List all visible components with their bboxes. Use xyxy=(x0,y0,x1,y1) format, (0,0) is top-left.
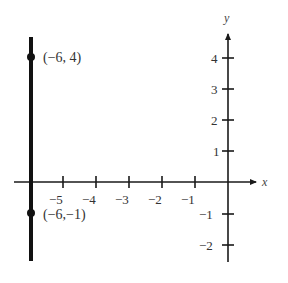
y-tick-label: −2 xyxy=(199,238,213,253)
y-tick-label: −1 xyxy=(199,207,213,222)
point-neg6-neg1 xyxy=(27,209,35,217)
x-tick-label: −1 xyxy=(181,192,195,207)
x-tick-label: −2 xyxy=(148,192,162,207)
x-tick-label: −5 xyxy=(49,192,63,207)
y-tick-label: 2 xyxy=(211,113,218,128)
point-label-neg6-4: (−6, 4) xyxy=(43,50,82,66)
y-tick-label: 3 xyxy=(211,82,218,97)
x-tick-label: −4 xyxy=(82,192,96,207)
point-label-neg6-neg1: (−6,−1) xyxy=(43,207,86,223)
coordinate-plane: x y −5 −4 −3 −2 −1 4 3 2 1 −1 −2 (−6, 4) xyxy=(0,0,288,283)
y-tick-label: 1 xyxy=(213,144,220,159)
y-tick-labels: 4 3 2 1 −1 −2 xyxy=(199,51,220,253)
x-tick-label: −3 xyxy=(115,192,129,207)
x-tick-labels: −5 −4 −3 −2 −1 xyxy=(49,192,195,207)
x-axis-label: x xyxy=(261,175,268,189)
y-axis-label: y xyxy=(223,11,230,25)
y-tick-label: 4 xyxy=(211,51,218,66)
point-neg6-4 xyxy=(27,53,35,61)
